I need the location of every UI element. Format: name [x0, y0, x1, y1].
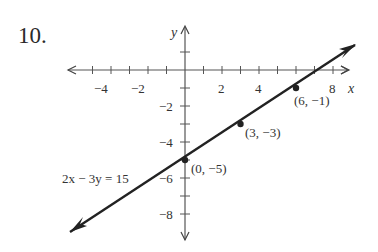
- x-tick-label: 4: [255, 81, 262, 96]
- y-axis-label: y: [169, 25, 178, 40]
- point-6-neg1: [293, 85, 299, 91]
- x-axis-label: x: [347, 81, 355, 96]
- line-arrow-upper-icon: [339, 44, 356, 58]
- x-tick-label: −4: [94, 81, 108, 96]
- point-label: (6, −1): [294, 93, 330, 108]
- y-tick-label: −4: [159, 135, 173, 150]
- line-arrow-lower-icon: [70, 217, 87, 232]
- point-label: (3, −3): [245, 125, 281, 140]
- point-label: (0, −5): [191, 161, 227, 176]
- x-tick-label: 2: [218, 81, 225, 96]
- point-3-neg3: [237, 121, 243, 127]
- coordinate-graph: −4 −2 2 4 8 x y −2 −4 −6 −8 (0, −5) (3, …: [0, 0, 378, 252]
- y-tick-label: −8: [159, 207, 173, 222]
- equation-label: 2x − 3y = 15: [62, 171, 129, 186]
- y-tick-label: −2: [159, 99, 173, 114]
- x-tick-label: −2: [131, 81, 145, 96]
- x-tick-label: 8: [329, 81, 336, 96]
- point-0-neg5: [182, 157, 188, 163]
- graph-line: [70, 45, 355, 232]
